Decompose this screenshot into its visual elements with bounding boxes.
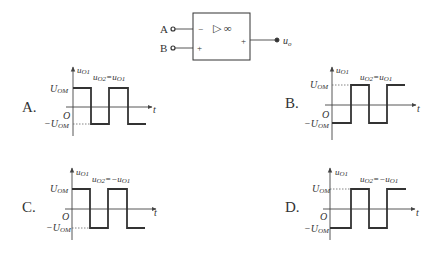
- output-sign: +: [241, 36, 246, 46]
- t-label: t: [416, 207, 419, 218]
- y-axis-label: uO1: [335, 167, 348, 178]
- relation-label: uO2=uO1: [360, 72, 392, 83]
- relation-label: uO2=−uO1: [92, 174, 130, 185]
- output-label: uo: [283, 35, 292, 48]
- terminal-out-icon: [275, 38, 279, 42]
- option-b[interactable]: B. uO1 uO2=uO1 UOM O t −UOM: [285, 65, 420, 140]
- origin-label: O: [320, 211, 327, 222]
- t-label: t: [154, 207, 157, 218]
- input-b-label: B: [160, 42, 167, 54]
- inverting-sign: −: [198, 24, 203, 34]
- option-a[interactable]: A. uO1 uO2=uO1 UOM O t −UOM: [22, 65, 156, 136]
- origin-label: O: [322, 109, 329, 120]
- pos-level-label: UOM: [310, 79, 329, 91]
- option-letter: C.: [22, 199, 36, 215]
- pos-level-label: UOM: [50, 83, 69, 95]
- input-a-label: A: [160, 23, 168, 35]
- origin-label: O: [62, 211, 69, 222]
- pos-level-label: UOM: [50, 183, 69, 195]
- square-wave: [72, 189, 145, 228]
- square-wave: [332, 85, 405, 123]
- noninverting-sign: +: [197, 43, 202, 53]
- neg-level-label: −UOM: [46, 222, 72, 234]
- square-wave: [330, 189, 406, 228]
- relation-label: uO2=−uO1: [360, 174, 398, 185]
- t-label: t: [153, 104, 156, 115]
- pos-level-label: UOM: [312, 183, 331, 195]
- y-axis-label: uO1: [76, 167, 89, 178]
- neg-level-label: −UOM: [304, 223, 330, 235]
- option-letter: D.: [285, 199, 300, 215]
- y-axis-label: uO1: [336, 65, 349, 76]
- opamp-circuit: A B − + ▷ ∞ + uo: [160, 13, 292, 60]
- origin-label: O: [63, 110, 70, 121]
- diagram-canvas: A B − + ▷ ∞ + uo A. uO1 uO2=uO1 UOM O t …: [0, 0, 437, 260]
- terminal-a-icon: [171, 27, 175, 31]
- t-label: t: [417, 103, 420, 114]
- option-letter: A.: [22, 99, 37, 115]
- square-wave: [73, 88, 146, 124]
- option-d[interactable]: D. uO1 uO2=−uO1 UOM O t −UOM: [285, 167, 419, 240]
- terminal-b-icon: [171, 46, 175, 50]
- option-letter: B.: [285, 95, 299, 111]
- option-c[interactable]: C. uO1 uO2=−uO1 UOM O t −UOM: [22, 167, 157, 240]
- relation-label: uO2=uO1: [93, 72, 125, 83]
- y-axis-label: uO1: [77, 65, 90, 76]
- opamp-symbol-icon: ▷ ∞: [213, 22, 232, 34]
